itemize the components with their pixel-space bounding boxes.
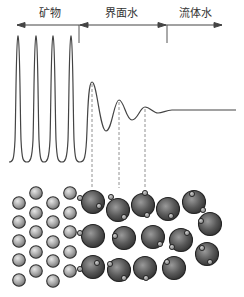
mineral-atom: [30, 265, 43, 278]
interfacial-arrowhead-left: [80, 23, 88, 28]
mineral-atom: [13, 216, 26, 229]
mineral-atom: [13, 254, 26, 267]
water-oxygen: [82, 191, 105, 214]
region-arrows: [17, 23, 222, 44]
water-hydrogen: [189, 191, 194, 196]
mineral-atom: [47, 197, 60, 210]
mineral-atom: [64, 187, 77, 200]
water-hydrogen: [121, 214, 126, 219]
water-hydrogen: [77, 266, 82, 271]
water-hydrogen: [198, 218, 203, 223]
water-molecules: [77, 190, 221, 281]
mineral-atom: [47, 275, 60, 288]
water-hydrogen: [207, 259, 212, 264]
water-hydrogen: [199, 245, 204, 250]
water-hydrogen: [94, 260, 99, 265]
water-hydrogen: [112, 233, 117, 238]
interfacial-arrowhead-right: [158, 23, 166, 28]
water-hydrogen: [108, 194, 113, 199]
water-hydrogen: [107, 261, 112, 266]
water-hydrogen: [184, 230, 189, 235]
water-hydrogen: [164, 259, 169, 264]
label-interfacial-water: 界面水: [105, 8, 138, 20]
mineral-atom: [30, 187, 43, 200]
water-oxygen: [82, 225, 105, 248]
mineral-atom: [47, 236, 60, 249]
mineral-atoms: [13, 187, 77, 288]
water-oxygen: [82, 256, 105, 279]
water-hydrogen: [144, 212, 149, 217]
water-oxygen: [199, 213, 222, 236]
label-mineral: 矿物: [39, 8, 61, 20]
mineral-atom: [64, 207, 77, 220]
water-hydrogen: [77, 195, 82, 200]
water-hydrogen: [143, 275, 148, 280]
mineral-atom: [64, 246, 77, 259]
water-hydrogen: [96, 203, 101, 208]
water-structure-diagram: [0, 0, 244, 297]
label-fluid-water: 流体水: [179, 8, 212, 20]
mineral-arrowhead-left: [17, 23, 25, 28]
water-hydrogen: [157, 241, 162, 246]
mineral-atom: [47, 255, 60, 268]
water-oxygen: [157, 198, 180, 221]
mineral-atom: [13, 235, 26, 248]
mineral-atom: [64, 265, 77, 278]
water-hydrogen: [121, 275, 126, 280]
mineral-atom: [30, 226, 43, 239]
mineral-atom: [13, 274, 26, 287]
mineral-atom: [64, 226, 77, 239]
mineral-atom: [30, 207, 43, 220]
water-hydrogen: [142, 190, 147, 195]
water-hydrogen: [168, 213, 173, 218]
water-hydrogen: [200, 207, 205, 212]
fluid-arrowhead-right: [214, 23, 222, 28]
water-hydrogen: [77, 230, 82, 235]
density-profile-curve: [9, 36, 236, 162]
mineral-atom: [30, 246, 43, 259]
mineral-atom: [47, 216, 60, 229]
water-oxygen: [132, 194, 155, 217]
water-hydrogen: [169, 244, 174, 249]
mineral-atom: [13, 197, 26, 210]
